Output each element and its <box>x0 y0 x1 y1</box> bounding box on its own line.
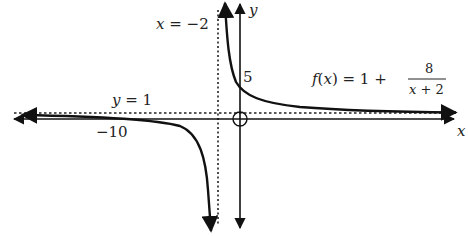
fraction-numerator: 8 <box>425 61 433 76</box>
vertical-asymptote-label: x = −2 <box>156 15 209 33</box>
y-intercept-label: 5 <box>243 68 253 86</box>
svg-text:x + 2: x + 2 <box>409 82 444 97</box>
function-graph: x = −2 y = 1 −10 5 y x f(x) = 1 + 8 x + … <box>0 0 468 236</box>
function-label: f(x) = 1 + 8 x + 2 <box>311 61 446 97</box>
horizontal-asymptote-label: y = 1 <box>111 91 152 109</box>
x-axis-label: x <box>457 122 466 140</box>
svg-text:f(x) = 1 +: f(x) = 1 + <box>311 70 387 88</box>
x-tick-label: −10 <box>96 123 128 141</box>
y-axis-label: y <box>248 1 258 19</box>
